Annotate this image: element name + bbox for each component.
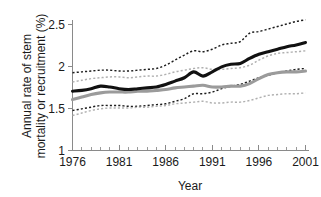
y-axis-title-line2: mortality or recruitment (%): [34, 14, 48, 159]
y-tick-label-2.5: 2.5: [48, 18, 65, 32]
x-tick-label-1986: 1986: [152, 155, 179, 169]
y-axis-tick-labels: 11.522.5: [48, 18, 65, 158]
series-path-0: [73, 42, 306, 91]
x-axis-title: Year: [178, 179, 202, 193]
x-tick-label-1991: 1991: [199, 155, 226, 169]
x-tick-label-1996: 1996: [246, 155, 273, 169]
chart-figure: 11.522.5 197619811986199119962001 Year A…: [0, 0, 321, 197]
y-tick-label-1.5: 1.5: [48, 102, 65, 116]
x-axis-tick-labels: 197619811986199119962001: [59, 155, 319, 169]
series-lines: [73, 20, 306, 116]
y-axis-title-line1: Annual rate of stem: [20, 34, 34, 138]
x-tick-label-1981: 1981: [106, 155, 133, 169]
series-path-4: [73, 51, 306, 82]
y-tick-label-2: 2: [58, 60, 65, 74]
x-axis-ticks: [73, 145, 306, 151]
series-path-1: [73, 20, 306, 73]
x-tick-label-1976: 1976: [59, 155, 86, 169]
x-tick-label-2001: 2001: [292, 155, 319, 169]
chart-plot-area: 11.522.5 197619811986199119962001 Year A…: [0, 0, 321, 197]
y-axis-ticks: [68, 24, 73, 150]
